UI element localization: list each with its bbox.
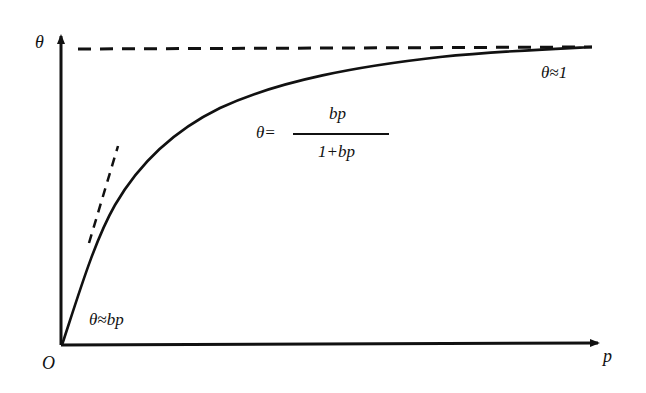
- low-p-annotation: θ≈bp: [89, 311, 124, 328]
- x-axis: [61, 343, 598, 345]
- langmuir-isotherm-plot: [0, 0, 646, 393]
- isotherm-curve: [62, 47, 592, 345]
- equation-lhs: θ=: [256, 124, 276, 141]
- equation-numerator: bp: [329, 105, 346, 122]
- asymptote-dashed-line: [78, 47, 592, 49]
- y-axis-label: θ: [35, 33, 44, 51]
- high-p-annotation: θ≈1: [541, 64, 567, 81]
- origin-label: O: [42, 354, 55, 372]
- x-axis-label: p: [603, 347, 612, 365]
- equation-denominator: 1+bp: [318, 143, 355, 160]
